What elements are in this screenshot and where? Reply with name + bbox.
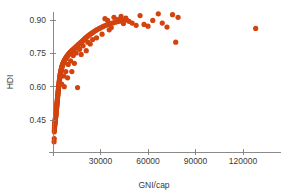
data-point bbox=[63, 69, 68, 74]
data-point bbox=[156, 11, 161, 16]
plot-svg: 300006000090000120000 0.450.600.750.90 G… bbox=[0, 0, 283, 195]
data-point bbox=[118, 14, 123, 19]
data-point bbox=[84, 48, 89, 53]
data-point bbox=[109, 25, 114, 30]
data-point bbox=[65, 75, 70, 80]
data-point bbox=[121, 21, 126, 26]
data-point bbox=[150, 18, 155, 23]
data-point bbox=[137, 13, 142, 18]
data-point bbox=[164, 25, 169, 30]
data-point bbox=[88, 41, 93, 46]
data-point bbox=[170, 12, 175, 17]
data-point bbox=[79, 52, 84, 57]
y-tick-label: 0.60 bbox=[29, 82, 46, 92]
data-point bbox=[75, 85, 80, 90]
data-point bbox=[80, 43, 85, 48]
y-axis-title: HDI bbox=[5, 75, 15, 90]
x-tick-label: 30000 bbox=[89, 156, 113, 166]
scatter-chart-figure: 300006000090000120000 0.450.600.750.90 G… bbox=[0, 0, 283, 195]
y-axis-ticks: 0.450.600.750.90 bbox=[29, 15, 56, 125]
data-point bbox=[72, 61, 77, 66]
x-tick-label: 60000 bbox=[136, 156, 160, 166]
data-point bbox=[52, 136, 57, 141]
x-tick-label: 120000 bbox=[229, 156, 258, 166]
y-tick-label: 0.45 bbox=[29, 115, 46, 125]
y-tick-label: 0.90 bbox=[29, 15, 46, 25]
data-point bbox=[145, 24, 150, 29]
y-tick-label: 0.75 bbox=[29, 48, 46, 58]
data-point bbox=[94, 35, 99, 40]
data-point bbox=[134, 23, 139, 28]
data-point bbox=[253, 26, 258, 31]
data-point bbox=[62, 84, 67, 89]
x-tick-label: 90000 bbox=[184, 156, 208, 166]
data-point bbox=[99, 32, 104, 37]
data-point bbox=[105, 18, 110, 23]
data-point bbox=[175, 15, 180, 20]
x-axis-title: GNI/cap bbox=[138, 180, 169, 190]
data-point bbox=[160, 21, 165, 26]
data-point bbox=[173, 40, 178, 45]
data-point bbox=[69, 69, 74, 74]
data-points-layer bbox=[51, 11, 258, 144]
